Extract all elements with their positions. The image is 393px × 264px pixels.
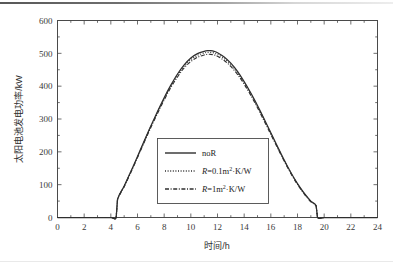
- y-tick-label: 0: [48, 213, 53, 223]
- y-tick-label: 400: [39, 81, 53, 91]
- y-tick-label: 300: [39, 114, 53, 124]
- y-axis-label: 太阳电池发电功率/kW: [13, 75, 24, 163]
- y-tick-label: 200: [39, 147, 53, 157]
- x-tick-label: 16: [266, 222, 276, 232]
- scan-artifact-bottom: [0, 261, 393, 262]
- x-tick-label: 18: [293, 222, 303, 232]
- x-tick-label: 24: [373, 222, 383, 232]
- x-axis-label: 时间/h: [204, 240, 230, 251]
- y-tick-label: 600: [39, 16, 53, 26]
- x-tick-label: 12: [213, 222, 222, 232]
- x-tick-label: 10: [186, 222, 196, 232]
- legend-value-R01: =0.1m: [207, 166, 229, 176]
- x-tick-label: 2: [82, 222, 87, 232]
- x-tick-label: 8: [162, 222, 167, 232]
- y-tick-label: 500: [39, 49, 53, 59]
- x-tick-label: 6: [135, 222, 140, 232]
- x-tick-label: 14: [240, 222, 250, 232]
- legend-label-R01: R=0.1m2·K/W: [201, 166, 252, 176]
- legend: noR R=0.1m2·K/W R=1m2·K/W: [158, 139, 269, 204]
- legend-tail-R01: ·K/W: [232, 166, 251, 176]
- solar-power-line-chart: 024681012141618202224 010020030040050060…: [0, 0, 393, 264]
- figure-container: 024681012141618202224 010020030040050060…: [0, 0, 393, 264]
- legend-label-noR: noR: [202, 148, 217, 158]
- x-tick-label: 20: [320, 222, 330, 232]
- x-tick-label: 0: [55, 222, 60, 232]
- legend-value-R1: =1m: [207, 184, 223, 194]
- scan-artifact-top: [0, 2, 393, 4]
- y-tick-label: 100: [39, 180, 53, 190]
- y-axis-tick-labels: 0100200300400500600: [39, 16, 53, 223]
- x-axis-tick-labels: 024681012141618202224: [55, 222, 382, 232]
- x-tick-label: 4: [109, 222, 114, 232]
- x-tick-label: 22: [346, 222, 355, 232]
- legend-tail-R1: ·K/W: [226, 184, 245, 194]
